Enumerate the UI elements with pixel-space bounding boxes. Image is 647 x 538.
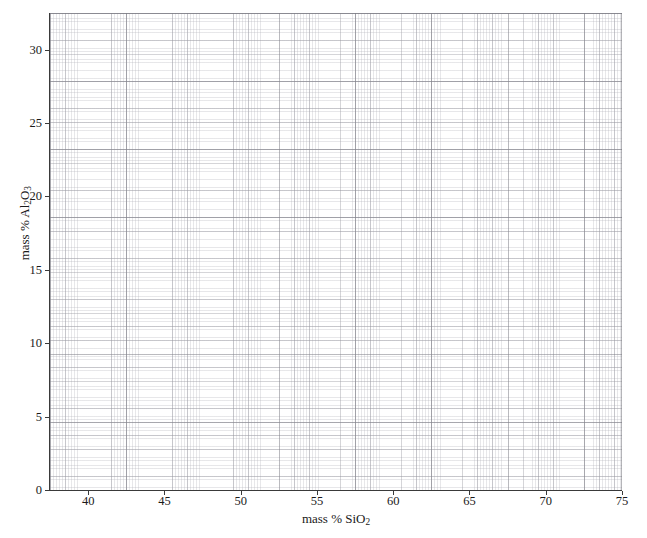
y-axis-title-text: mass % Al	[17, 205, 32, 261]
y-tick-mark	[45, 417, 49, 418]
y-tick-mark	[45, 123, 49, 124]
y-axis-title-subscript-1: 2	[23, 200, 33, 205]
x-tick-label: 50	[221, 494, 261, 509]
x-tick-label: 75	[602, 494, 642, 509]
plot-frame-top-edge	[50, 13, 622, 14]
x-axis-title: mass % SiO2	[50, 511, 622, 527]
x-tick-label: 60	[373, 494, 413, 509]
y-tick-label: 5	[6, 410, 42, 424]
plot-frame-right-edge	[621, 13, 622, 490]
x-tick-label: 45	[144, 494, 184, 509]
y-tick-mark	[45, 343, 49, 344]
plot-area-graph-paper[interactable]	[50, 13, 622, 490]
y-axis-spine	[49, 13, 50, 491]
y-axis-title-subscript-2: 3	[23, 186, 33, 191]
x-axis-spine	[49, 490, 622, 491]
x-tick-label: 40	[68, 494, 108, 509]
y-tick-mark	[45, 196, 49, 197]
x-axis-title-subscript: 2	[365, 517, 370, 527]
figure-canvas: 4045505560657075 051015202530 mass % SiO…	[0, 0, 647, 538]
x-tick-label: 65	[449, 494, 489, 509]
y-tick-mark	[45, 50, 49, 51]
y-tick-mark	[45, 270, 49, 271]
y-tick-label: 0	[6, 483, 42, 497]
y-tick-label: 30	[6, 43, 42, 57]
x-axis-title-text: mass % SiO	[302, 511, 366, 526]
x-tick-label: 55	[297, 494, 337, 509]
y-axis-title: mass % Al2O3	[17, 83, 33, 363]
x-tick-label: 70	[526, 494, 566, 509]
y-tick-mark	[45, 490, 49, 491]
y-axis-title-text-2: O	[17, 191, 32, 200]
